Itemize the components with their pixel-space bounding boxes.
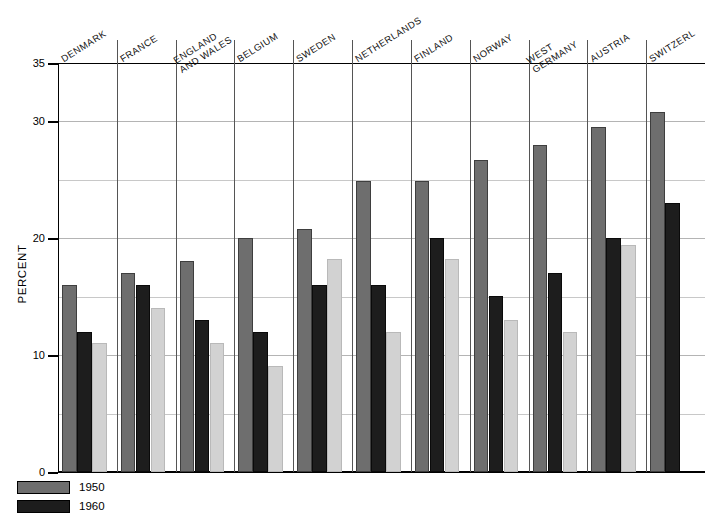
bar — [591, 127, 606, 472]
legend-label: 1950 — [79, 481, 105, 493]
bar — [445, 259, 460, 472]
y-axis-tick-label: 20 — [5, 233, 45, 244]
group-separator-tick — [352, 40, 353, 63]
bar — [650, 112, 665, 472]
group-separator-tick — [646, 40, 647, 63]
bar-group — [234, 63, 293, 472]
x-axis-label-switzerl: SWITZERL — [648, 28, 698, 64]
bar — [606, 238, 621, 472]
y-axis-tick — [48, 238, 58, 240]
x-axis-label-france: FRANCE — [118, 33, 159, 64]
bar — [297, 229, 312, 472]
x-axis-label-austria: AUSTRIA — [589, 32, 632, 65]
group-separator-tick — [470, 40, 471, 63]
y-axis-tick — [48, 472, 58, 474]
bar — [548, 273, 563, 472]
bar-group — [646, 63, 705, 472]
bar — [92, 343, 107, 472]
bar — [415, 181, 430, 472]
legend-item: 1950 — [17, 479, 105, 495]
bar — [356, 181, 371, 472]
bar — [474, 160, 489, 472]
bar — [621, 245, 636, 472]
bar — [180, 261, 195, 473]
bar — [386, 332, 401, 472]
y-axis-tick — [48, 121, 58, 123]
legend-label: 1960 — [79, 500, 105, 512]
bar — [371, 285, 386, 472]
bar — [665, 203, 680, 472]
x-axis-label-sweden: SWEDEN — [295, 32, 338, 65]
bar — [62, 285, 77, 472]
bar-group — [352, 63, 411, 472]
legend: 19501960 — [17, 479, 105, 517]
bar — [195, 320, 210, 472]
y-axis-tick-label: 10 — [5, 350, 45, 361]
y-axis-tick — [48, 355, 58, 357]
bar — [210, 343, 225, 472]
bar — [430, 238, 445, 472]
legend-swatch — [17, 500, 70, 513]
bar-group — [470, 63, 529, 472]
bar — [563, 332, 578, 472]
x-axis-label-denmark: DENMARK — [59, 29, 108, 65]
bar-group — [58, 63, 117, 472]
bar — [151, 308, 166, 472]
bar — [121, 273, 136, 472]
bar-group — [117, 63, 176, 472]
bar-group — [587, 63, 646, 472]
y-axis-tick-label: 35 — [5, 58, 45, 69]
group-separator-tick — [293, 40, 294, 63]
bar-group — [529, 63, 588, 472]
group-separator-tick — [117, 40, 118, 63]
group-separator-tick — [234, 40, 235, 63]
bar — [77, 332, 92, 472]
bar — [253, 332, 268, 472]
bar — [533, 145, 548, 472]
bar — [312, 285, 327, 472]
bar — [136, 285, 151, 472]
bar-group — [293, 63, 352, 472]
y-axis-tick-label: 0 — [5, 467, 45, 478]
bar — [268, 366, 283, 472]
bar-group — [411, 63, 470, 472]
x-axis-label-belgium: BELGIUM — [236, 31, 281, 64]
x-axis-label-finland: FINLAND — [412, 32, 455, 64]
x-axis-label-norway: NORWAY — [471, 32, 514, 65]
group-separator-tick — [587, 40, 588, 63]
bar-group — [176, 63, 235, 472]
legend-item: 1960 — [17, 498, 105, 514]
group-separator-tick — [411, 40, 412, 63]
legend-swatch — [17, 481, 70, 494]
y-axis-tick — [48, 63, 58, 65]
bar — [238, 238, 253, 472]
bar — [504, 320, 519, 472]
bar — [327, 259, 342, 472]
bars-layer — [58, 63, 705, 472]
bar — [489, 296, 504, 472]
y-axis-tick-label: 30 — [5, 116, 45, 127]
